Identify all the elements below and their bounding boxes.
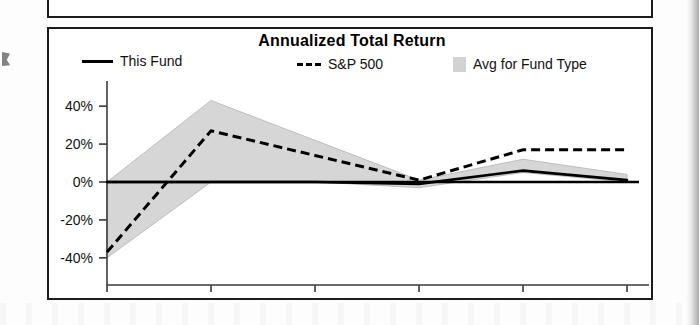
y-tick-label: 20% bbox=[65, 136, 93, 152]
x-tick-label: 2012 bbox=[610, 299, 643, 302]
x-tick-label: 2008 bbox=[194, 299, 227, 302]
plot-area: 40%20%0%-20%-40% 20072008200920102011201… bbox=[49, 29, 655, 302]
y-axis-tick-labels: 40%20%0%-20%-40% bbox=[60, 98, 93, 266]
x-axis-tick-labels: 200720082009201020112012YTD bbox=[90, 299, 655, 302]
scan-artifact-right-edge bbox=[686, 0, 699, 325]
adjacent-panel-above bbox=[47, 0, 653, 18]
chart-plot-svg: 40%20%0%-20%-40% 20072008200920102011201… bbox=[49, 29, 655, 302]
y-tick-label: 0% bbox=[73, 174, 93, 190]
x-tick-label: 2011 bbox=[507, 299, 539, 302]
y-tick-label: -40% bbox=[60, 250, 93, 266]
scan-artifact-left bbox=[2, 52, 10, 66]
x-tick-label: 2009 bbox=[298, 299, 331, 302]
x-axis-ytd-label: YTD bbox=[645, 300, 655, 302]
y-tick-label: -20% bbox=[60, 212, 93, 228]
scan-artifact-bottom bbox=[0, 303, 699, 325]
avg-fund-type-area bbox=[107, 100, 627, 257]
annualized-total-return-chart-panel: Annualized Total Return This Fund S&P 50… bbox=[47, 27, 653, 300]
y-tick-label: 40% bbox=[65, 98, 93, 114]
avg-fund-type-band bbox=[107, 100, 627, 257]
x-tick-label: 2007 bbox=[90, 299, 123, 302]
x-tick-label: 2010 bbox=[402, 299, 435, 302]
scanned-page: Annualized Total Return This Fund S&P 50… bbox=[0, 0, 699, 325]
